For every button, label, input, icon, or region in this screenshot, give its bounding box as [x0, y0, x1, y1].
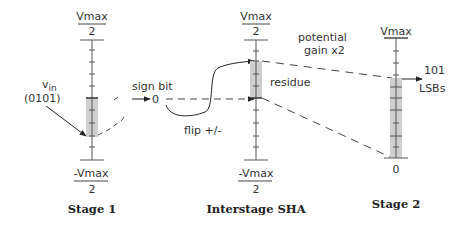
vin-code: (0101): [24, 92, 61, 105]
stage1-bottom-label-num: -Vmax: [74, 167, 109, 180]
stage2-scale: [384, 38, 408, 158]
sha-bottom-label-den: 2: [253, 183, 260, 196]
projection-lower-dashed: [262, 98, 390, 157]
stage1-dashed-bracket-lower: [98, 117, 124, 135]
sha-scale: [244, 40, 268, 160]
flip-curve-arrow: [166, 61, 254, 116]
adc-residue-diagram: Vmax 2 -Vmax 2 Stage 1 vin (0101) sign b…: [0, 0, 466, 236]
stage1-bottom-label-den: 2: [89, 183, 96, 196]
sha-top-label-num: Vmax: [240, 10, 272, 23]
sha-title: Interstage SHA: [206, 202, 306, 216]
gain-label-line1: potential: [298, 31, 347, 44]
sign-bit-value: 0: [152, 93, 159, 106]
vin-arrow: [46, 106, 86, 136]
stage1-top-label-num: Vmax: [76, 10, 108, 23]
flip-label: flip +/-: [184, 124, 221, 137]
stage2-top-label: Vmax: [380, 25, 412, 38]
stage2-bottom-label: 0: [393, 163, 400, 176]
stage2-title: Stage 2: [372, 197, 420, 211]
stage1-title: Stage 1: [68, 202, 116, 216]
stage1-dashed-bracket-upper: [114, 97, 118, 100]
sha-bottom-label-num: -Vmax: [239, 167, 274, 180]
gain-label-line2: gain x2: [304, 44, 345, 57]
vin-label: vin: [42, 78, 57, 93]
stage1-scale: [80, 40, 104, 160]
stage2-output-unit: LSBs: [419, 82, 446, 95]
sha-top-label-den: 2: [253, 25, 260, 38]
stage2-output-value: 101: [424, 64, 445, 77]
residue-label: residue: [270, 76, 311, 89]
sign-bit-label: sign bit: [132, 80, 173, 93]
stage1-top-label-den: 2: [89, 25, 96, 38]
